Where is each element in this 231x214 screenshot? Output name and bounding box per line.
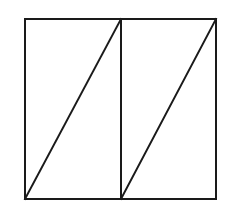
right-diagonal-line	[121, 19, 216, 199]
left-diagonal-line	[25, 19, 121, 199]
figure-container	[0, 0, 231, 214]
geometry-diagram	[0, 0, 231, 214]
